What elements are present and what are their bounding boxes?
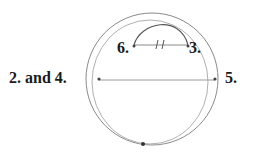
label-5: 5.	[225, 69, 237, 86]
geometry-diagram: 6. 3. 2. and 4. 5.	[0, 0, 253, 162]
outer-circle	[86, 13, 218, 145]
label-3: 3.	[189, 39, 201, 56]
right-endpoint	[213, 77, 216, 80]
label-6: 6.	[117, 39, 129, 56]
label-2-and-4: 2. and 4.	[9, 69, 67, 86]
bottom-point	[141, 142, 145, 146]
top-arc	[134, 25, 188, 45]
left-endpoint	[97, 77, 100, 80]
